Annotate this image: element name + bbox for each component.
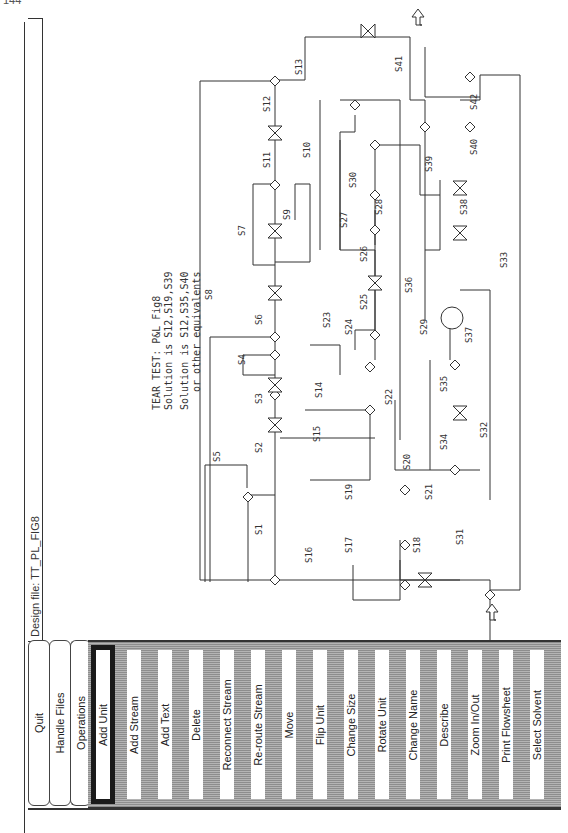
valve-icon (453, 226, 467, 240)
mixer-icon (485, 590, 495, 600)
cmd-add-stream[interactable]: Add Stream (127, 650, 141, 799)
cmd-reconnect-stream[interactable]: Reconnect Stream (220, 650, 234, 799)
stream-label-s34: S34 (439, 434, 449, 450)
mixer-icon (465, 72, 475, 82)
stream-label-s15: S15 (312, 426, 322, 442)
cmd-label: Change Name (407, 689, 419, 760)
annotation-line3: Solution is S12,S35,S40 (179, 272, 190, 410)
stream-label-s40: S40 (469, 139, 479, 155)
stream-label-s1: S1 (254, 524, 264, 535)
stream-label-s39: S39 (424, 156, 434, 172)
mixer-icon (370, 190, 380, 200)
mixer-icon (270, 76, 280, 86)
cmd-print-flowsheet[interactable]: Print Flowsheet (499, 650, 513, 799)
mixer-icon (270, 180, 280, 190)
flowsheet-canvas[interactable]: TEAR TEST: P&L Fig8 Solution is S12,S19,… (0, 0, 568, 640)
stream-label-s17: S17 (344, 537, 354, 553)
annotation-line1: TEAR TEST: P&L Fig8 (151, 296, 162, 410)
mixer-icon (420, 122, 430, 132)
cmd-change-name[interactable]: Change Name (406, 650, 420, 799)
mixer-icon (365, 405, 375, 415)
tab-quit[interactable]: Quit (28, 640, 50, 806)
mixer-icon (465, 122, 475, 132)
pump-icon (441, 307, 463, 329)
cmd-add-text[interactable]: Add Text (158, 650, 172, 799)
mixer-icon (270, 332, 280, 342)
cmd-label: Add Text (159, 703, 171, 746)
stream-label-s28: S28 (374, 199, 384, 215)
operations-panel: Add Unit Add Stream Add Text Delete Reco… (88, 640, 561, 809)
mixer-icon (270, 575, 280, 585)
stream-label-s4: S4 (237, 354, 247, 365)
stream-label-s3: S3 (254, 393, 264, 404)
cmd-describe[interactable]: Describe (437, 650, 451, 799)
stream-label-s25: S25 (359, 294, 369, 310)
stream-label-s29: S29 (419, 319, 429, 335)
mixer-icon (243, 492, 253, 502)
stream-label-s37: S37 (464, 327, 474, 343)
stream-label-s26: S26 (359, 246, 369, 262)
stream-label-s38: S38 (459, 199, 469, 215)
stream-label-s22: S22 (384, 389, 394, 405)
cmd-move[interactable]: Move (282, 650, 296, 799)
tab-handle-files[interactable]: Handle Files (49, 640, 71, 806)
stream-label-s41: S41 (394, 56, 404, 72)
stream-label-s23: S23 (322, 312, 332, 328)
stream-label-s9: S9 (282, 209, 292, 220)
mixer-icon (370, 140, 380, 150)
mixer-icon (400, 580, 410, 590)
mixer-icon (400, 540, 410, 550)
stream-label-s35: S35 (439, 376, 449, 392)
valve-icon (268, 126, 282, 140)
cmd-label: Add Unit (97, 703, 109, 745)
valve-icon (453, 181, 467, 195)
stream-label-s36: S36 (404, 277, 414, 293)
stream-label-s18: S18 (412, 537, 422, 553)
valve-icon (268, 418, 282, 432)
valve-icon (368, 276, 382, 290)
cmd-label: Add Stream (128, 695, 140, 753)
stream-label-s32: S32 (479, 422, 489, 438)
cmd-select-solvent[interactable]: Select Solvent (530, 650, 544, 799)
mixer-icon (350, 100, 360, 110)
cmd-reroute-stream[interactable]: Re-route Stream (251, 650, 265, 799)
stream-label-s14: S14 (314, 382, 324, 398)
bottom-rule (28, 808, 561, 810)
tab-handle-files-label: Handle Files (54, 692, 66, 753)
mixer-icon (450, 465, 460, 475)
cmd-change-size[interactable]: Change Size (344, 650, 358, 799)
stream-label-s5: S5 (212, 451, 222, 462)
valve-icon (268, 378, 282, 392)
stream-label-s33: S33 (499, 252, 509, 268)
stream-label-s6: S6 (254, 314, 264, 325)
stream-label-s19: S19 (344, 484, 354, 500)
stream-label-s10: S10 (302, 142, 312, 158)
annotation-line2: Solution is S12,S19,S39 (163, 272, 174, 410)
cmd-label: Rotate Unit (376, 697, 388, 752)
mixer-icon (450, 360, 460, 370)
cmd-add-unit[interactable]: Add Unit (96, 650, 110, 799)
stream-label-s8: S8 (204, 289, 214, 300)
stream-label-s31: S31 (455, 529, 465, 545)
cmd-delete[interactable]: Delete (189, 650, 203, 799)
cmd-zoom-in-out[interactable]: Zoom In/Out (468, 650, 482, 799)
stream-label-s12: S12 (262, 96, 272, 112)
stream-label-s20: S20 (402, 454, 412, 470)
stream-label-s2: S2 (254, 442, 264, 453)
cmd-rotate-unit[interactable]: Rotate Unit (375, 650, 389, 799)
valve-icon (361, 24, 375, 38)
cmd-label: Delete (190, 709, 202, 741)
cmd-flip-unit[interactable]: Flip Unit (313, 650, 327, 799)
cmd-label: Zoom In/Out (469, 694, 481, 755)
menu-panel: Quit Handle Files Operations Add Unit Ad… (28, 640, 561, 808)
stream-label-s7: S7 (237, 225, 247, 236)
cmd-label: Move (283, 711, 295, 738)
mixer-icon (370, 330, 380, 340)
stream-label-s42: S42 (469, 94, 479, 110)
cmd-label: Change Size (345, 693, 357, 756)
cmd-label: Print Flowsheet (500, 687, 512, 763)
mixer-icon (370, 225, 380, 235)
product-arrow-icon (412, 9, 424, 25)
cmd-label: Reconnect Stream (221, 679, 233, 770)
tab-operations-label: Operations (75, 696, 87, 750)
